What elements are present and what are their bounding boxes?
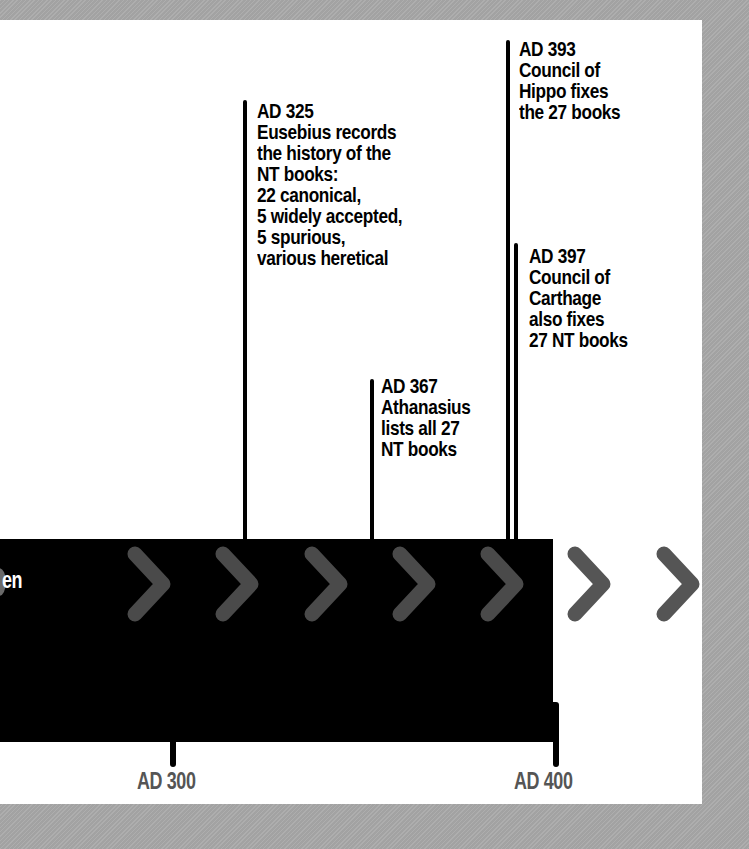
event-line-text: Athanasius	[381, 396, 471, 417]
event-line-text: 5 widely accepted,	[257, 205, 402, 226]
event-line-text: also fixes	[529, 308, 628, 329]
event-ad367: AD 367 Athanasius lists all 27 NT books	[381, 375, 471, 459]
timeline-band	[0, 539, 553, 742]
event-line-text: 5 spurious,	[257, 226, 402, 247]
event-line-text: 22 canonical,	[257, 184, 402, 205]
event-line-text: Carthage	[529, 287, 628, 308]
chevron-right-icon	[479, 545, 525, 623]
event-line-text: Eusebius records	[257, 121, 402, 142]
event-year: AD 393	[519, 38, 620, 59]
event-year: AD 325	[257, 100, 402, 121]
chevron-right-icon	[391, 545, 437, 623]
event-line-ad397	[514, 243, 518, 540]
event-line-text: NT books:	[257, 163, 402, 184]
event-line-text: 27 NT books	[529, 329, 628, 350]
axis-tick-ad400	[553, 740, 559, 767]
event-line-text: lists all 27	[381, 417, 471, 438]
chevron-right-icon	[655, 545, 701, 623]
event-line-text: NT books	[381, 438, 471, 459]
event-ad325: AD 325 Eusebius records the history of t…	[257, 100, 402, 268]
chevron-right-icon	[126, 545, 172, 623]
event-line-text: the 27 books	[519, 101, 620, 122]
event-line-text: Hippo fixes	[519, 80, 620, 101]
event-line-text: Council of	[529, 266, 628, 287]
band-label: en	[2, 567, 22, 594]
event-line-text: Council of	[519, 59, 620, 80]
event-line-ad325	[243, 100, 247, 540]
event-ad397: AD 397 Council of Carthage also fixes 27…	[529, 245, 628, 350]
chevron-right-icon	[566, 545, 612, 623]
event-year: AD 367	[381, 375, 471, 396]
chevron-right-icon	[303, 545, 349, 623]
chevron-right-icon	[214, 545, 260, 623]
event-line-text: the history of the	[257, 142, 402, 163]
axis-tick-ad300	[170, 740, 176, 767]
axis-label-ad400: AD 400	[514, 768, 572, 795]
axis-label-ad300: AD 300	[137, 768, 195, 795]
timeline-band-end-tab	[550, 702, 559, 742]
event-line-ad393	[506, 40, 510, 540]
event-ad393: AD 393 Council of Hippo fixes the 27 boo…	[519, 38, 620, 122]
event-line-ad367	[370, 379, 374, 540]
event-line-text: various heretical	[257, 247, 402, 268]
event-year: AD 397	[529, 245, 628, 266]
